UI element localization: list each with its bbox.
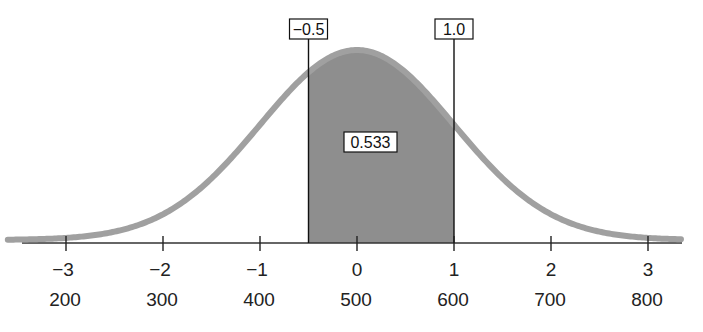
score-tick-labels: 200300400500600700800 [49, 289, 663, 310]
z-tick-label: 1 [449, 259, 460, 280]
z-tick-label: 0 [352, 259, 363, 280]
svg-text:1.0: 1.0 [443, 21, 465, 38]
svg-text:0.533: 0.533 [350, 134, 390, 151]
right-bound-label: 1.0 [435, 19, 473, 39]
score-tick-label: 500 [340, 289, 372, 310]
score-tick-label: 400 [243, 289, 275, 310]
z-tick-label: 3 [643, 259, 654, 280]
svg-text:−0.5: −0.5 [293, 21, 325, 38]
score-tick-label: 600 [437, 289, 469, 310]
normal-distribution-chart: −3−2−10123 200300400500600700800 −0.5 1.… [0, 0, 703, 332]
z-tick-label: −3 [52, 259, 74, 280]
score-tick-label: 700 [534, 289, 566, 310]
z-tick-label: −1 [246, 259, 268, 280]
score-tick-label: 300 [146, 289, 178, 310]
area-label: 0.533 [344, 132, 397, 152]
score-tick-label: 800 [631, 289, 663, 310]
score-tick-label: 200 [49, 289, 81, 310]
z-tick-label: 2 [546, 259, 557, 280]
z-tick-label: −2 [149, 259, 171, 280]
z-tick-labels: −3−2−10123 [52, 259, 653, 280]
left-bound-label: −0.5 [290, 19, 328, 39]
